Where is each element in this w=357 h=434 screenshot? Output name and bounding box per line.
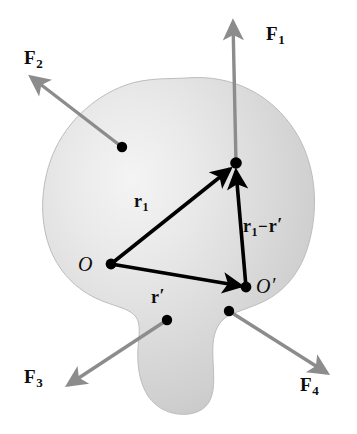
force-subscript-F4: 4 bbox=[312, 383, 319, 398]
force-letter-F1: F bbox=[266, 23, 278, 44]
point-label-O-prime: O′ bbox=[256, 276, 275, 296]
application-dot-F3 bbox=[162, 315, 172, 325]
point-dot-O bbox=[106, 259, 117, 270]
vector-letter-r1-term: r bbox=[243, 216, 251, 236]
force-subscript-F1: 1 bbox=[278, 32, 285, 47]
force-label-F3: F3 bbox=[24, 367, 43, 386]
minus-sign: − bbox=[257, 217, 269, 236]
prime-mark-r-term: ′ bbox=[277, 215, 282, 235]
application-dot-F4 bbox=[224, 306, 234, 316]
vector-letter-r-prime: r bbox=[151, 287, 159, 307]
vector-label-r1-minus-r-prime: r1−r′ bbox=[243, 217, 282, 235]
point-label-O: O bbox=[78, 254, 92, 274]
vector-label-r-prime: r′ bbox=[151, 288, 164, 306]
application-dot-F2 bbox=[117, 142, 127, 152]
vector-letter-r-term: r bbox=[269, 216, 277, 236]
force-arrow-F4 bbox=[229, 311, 327, 373]
point-letter-O-prime: O bbox=[256, 275, 270, 297]
vector-subscript-r1-term: 1 bbox=[252, 225, 258, 239]
force-letter-F3: F bbox=[24, 366, 36, 387]
diagram-canvas bbox=[0, 0, 357, 434]
point-dot-O-prime bbox=[241, 282, 252, 293]
vector-subscript-r1: 1 bbox=[143, 200, 149, 214]
force-subscript-F2: 2 bbox=[36, 56, 43, 71]
force-letter-F4: F bbox=[300, 374, 312, 395]
rigid-body-shape bbox=[43, 78, 315, 415]
point-letter-O: O bbox=[78, 253, 92, 275]
prime-mark-O: ′ bbox=[271, 274, 275, 296]
vector-label-r1: r1 bbox=[134, 192, 148, 210]
force-label-F2: F2 bbox=[24, 48, 43, 67]
force-subscript-F3: 3 bbox=[36, 375, 43, 390]
figure-container: F1 F2 F3 F4 r1 r′ r1−r′ O O′ bbox=[0, 0, 357, 434]
vector-letter-r1: r bbox=[134, 191, 142, 211]
prime-mark-r: ′ bbox=[160, 286, 165, 306]
force-label-F1: F1 bbox=[266, 24, 285, 43]
force-label-F4: F4 bbox=[300, 375, 319, 394]
force-letter-F2: F bbox=[24, 47, 36, 68]
point-dot-P bbox=[230, 157, 242, 169]
